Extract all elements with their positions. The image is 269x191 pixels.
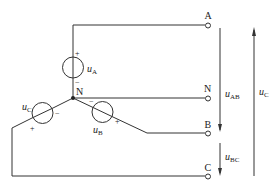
source-b-bar (92, 107, 113, 117)
uc-arrowhead-icon (252, 27, 256, 36)
uab-arrowhead-icon (218, 124, 222, 132)
label-n: N (204, 83, 211, 94)
source-c-minus: − (55, 109, 60, 118)
uc-label: uC (259, 86, 269, 99)
source-b-minus: − (89, 97, 94, 106)
source-c-plus: + (30, 124, 35, 133)
wire-c (12, 98, 205, 176)
ubc-arrowhead-icon (218, 168, 222, 176)
source-a-label: uA (87, 63, 97, 76)
label-neutral-junction: N (76, 86, 83, 97)
terminal-c (206, 174, 211, 179)
uab-label: uAB (225, 88, 240, 101)
terminal-n (206, 96, 211, 101)
terminal-a (206, 23, 211, 28)
source-c-bar (32, 108, 53, 118)
source-b-plus: + (115, 117, 120, 126)
ubc-label: uBC (225, 151, 240, 164)
label-c: C (205, 162, 212, 173)
label-a: A (205, 10, 213, 21)
source-a-minus: − (75, 78, 80, 87)
wire-a (73, 25, 205, 98)
neutral-junction-dot (71, 96, 75, 100)
source-c-label: uC (22, 101, 32, 114)
source-a-plus: + (75, 49, 80, 58)
three-phase-circuit-diagram: A N B C N + − uA − + uB uC − + uAB uBC u… (0, 0, 269, 191)
terminal-b (206, 131, 211, 136)
label-b: B (205, 119, 212, 130)
source-b-label: uB (93, 124, 103, 137)
